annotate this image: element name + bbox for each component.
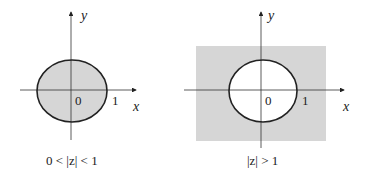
unit-label: 1 [302,93,309,108]
origin-label: 0 [75,93,82,108]
unit-label: 1 [112,93,119,108]
y-axis-label: y [79,8,88,23]
y-axis-label: y [266,8,275,23]
right-diagram: y x 0 1 [184,8,350,148]
x-axis-label: x [342,99,350,114]
right-caption: |z| > 1 [247,153,278,169]
left-caption: 0 < |z| < 1 [46,153,98,169]
origin-label: 0 [265,93,272,108]
left-diagram: y x 0 1 [20,8,140,140]
x-axis-label: x [132,99,140,114]
